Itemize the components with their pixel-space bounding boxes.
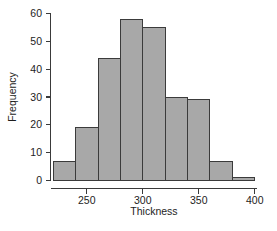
- y-axis-tick-label: 10: [30, 146, 42, 158]
- y-axis: 0102030405060: [30, 7, 50, 186]
- x-axis-title: Thickness: [130, 205, 177, 217]
- y-axis-tick-label: 40: [30, 63, 42, 75]
- y-axis-tick-label: 20: [30, 118, 42, 130]
- histogram-bar: [188, 100, 210, 181]
- x-axis: 250300350400: [51, 189, 264, 207]
- histogram-bar: [210, 161, 232, 180]
- y-axis-tick-label: 60: [30, 7, 42, 19]
- histogram-bar: [120, 19, 142, 180]
- y-axis-tick-label: 30: [30, 91, 42, 103]
- x-axis-tick-label: 400: [246, 194, 264, 206]
- y-axis-tick-label: 0: [36, 174, 42, 186]
- y-axis-tick-label: 50: [30, 35, 42, 47]
- histogram-bar: [98, 58, 120, 180]
- histogram-bar: [53, 161, 75, 180]
- x-axis-tick-label: 350: [190, 194, 208, 206]
- plot-area: 0102030405060 250300350400 Thickness Fre…: [0, 0, 277, 231]
- x-axis-tick-label: 250: [78, 194, 96, 206]
- histogram-bar: [76, 128, 98, 181]
- bars-group: [53, 19, 255, 180]
- histogram-chart: 0102030405060 250300350400 Thickness Fre…: [0, 0, 277, 231]
- histogram-bar: [165, 97, 187, 181]
- histogram-bar: [143, 27, 165, 180]
- histogram-bar: [232, 178, 254, 181]
- y-axis-title: Frequency: [6, 71, 18, 121]
